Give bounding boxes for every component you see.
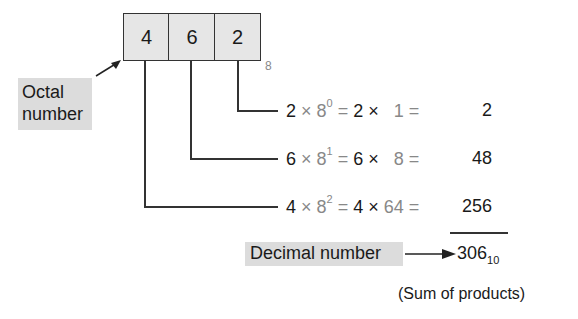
eq-power-value: 64 xyxy=(384,197,404,217)
eq-exponent: 1 xyxy=(327,145,333,157)
sum-underline xyxy=(450,232,508,234)
octal-base-subscript: 8 xyxy=(265,59,272,73)
eq-base: 8 xyxy=(317,149,327,169)
decimal-value: 306 xyxy=(457,243,487,263)
eq-digit: 4 xyxy=(286,197,296,217)
eq-equals: = xyxy=(409,197,420,217)
eq-digit-repeat: 2 xyxy=(353,101,363,121)
octal-digit: 4 xyxy=(141,26,152,49)
eq-exponent: 2 xyxy=(327,193,333,205)
eq-equals: = xyxy=(338,101,349,121)
eq-times: × xyxy=(368,149,379,169)
equation-row-2: 4 × 82 = 4 × 64 = xyxy=(286,196,419,218)
eq-equals: = xyxy=(409,101,420,121)
sum-of-products-note: (Sum of products) xyxy=(398,285,525,303)
eq-equals: = xyxy=(338,149,349,169)
octal-digit: 6 xyxy=(186,26,197,49)
octal-number-label: Octal number xyxy=(18,78,92,130)
equation-row-0: 2 × 80 = 2 × 1 = xyxy=(286,100,419,122)
eq-equals: = xyxy=(409,149,420,169)
decimal-base-subscript: 10 xyxy=(487,254,499,266)
octal-digit-cell-0: 4 xyxy=(123,13,170,61)
eq-base: 8 xyxy=(317,197,327,217)
product-0: 2 xyxy=(452,100,492,121)
eq-digit-repeat: 4 xyxy=(353,197,363,217)
eq-digit: 2 xyxy=(286,101,296,121)
octal-digit-cell-2: 2 xyxy=(214,13,261,61)
connector-digit6-vertical xyxy=(190,61,192,159)
octal-label-line2: number xyxy=(22,103,92,125)
product-1: 48 xyxy=(452,148,492,169)
eq-exponent: 0 xyxy=(327,97,333,109)
octal-digit-cell-1: 6 xyxy=(168,13,216,61)
octal-label-line1: Octal xyxy=(22,81,92,103)
eq-times: × xyxy=(301,197,312,217)
eq-times: × xyxy=(368,197,379,217)
eq-digit-repeat: 6 xyxy=(353,149,363,169)
eq-times: × xyxy=(301,149,312,169)
decimal-number-label: Decimal number xyxy=(245,242,403,266)
eq-power-value: 8 xyxy=(394,149,404,169)
octal-digit: 2 xyxy=(232,26,243,49)
connector-digit2-horizontal xyxy=(237,110,278,112)
connector-digit4-horizontal xyxy=(144,206,278,208)
connector-digit6-horizontal xyxy=(190,158,278,160)
decimal-result: 30610 xyxy=(457,243,499,264)
connector-digit2-vertical xyxy=(237,61,239,111)
eq-equals: = xyxy=(338,197,349,217)
eq-power-value: 1 xyxy=(394,101,404,121)
result-arrow-icon xyxy=(402,247,458,261)
connector-digit4-vertical xyxy=(144,61,146,207)
equation-row-1: 6 × 81 = 6 × 8 = xyxy=(286,148,419,170)
eq-times: × xyxy=(301,101,312,121)
product-2: 256 xyxy=(452,196,492,217)
pointer-arrow-icon xyxy=(90,55,130,85)
eq-digit: 6 xyxy=(286,149,296,169)
eq-base: 8 xyxy=(317,101,327,121)
eq-times: × xyxy=(368,101,379,121)
